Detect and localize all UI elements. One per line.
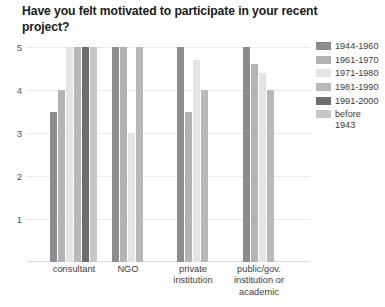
y-axis-tick-label: 3 (17, 128, 22, 139)
bar (128, 133, 135, 262)
bar (193, 60, 200, 262)
x-axis-label: public/gov. institution or academic (214, 264, 304, 298)
bar (177, 47, 184, 262)
bar (120, 47, 127, 262)
legend-item[interactable]: before 1943 (316, 109, 385, 130)
bar (259, 73, 266, 262)
legend-label: 1961-1970 (335, 55, 379, 66)
legend-swatch-icon (316, 83, 331, 91)
bar (90, 47, 97, 262)
legend-item[interactable]: 1991-2000 (316, 96, 385, 107)
bar (112, 47, 119, 262)
legend-item[interactable]: 1961-1970 (316, 55, 385, 66)
bar-group (243, 47, 275, 262)
bar (243, 47, 250, 262)
plot-area: 12345 (27, 47, 310, 262)
bar (267, 90, 274, 262)
legend-item[interactable]: 1944-1960 (316, 41, 385, 52)
bar (201, 90, 208, 262)
legend: 1944-19601961-19701971-19801981-19901991… (316, 41, 385, 134)
y-axis-tick-label: 2 (17, 171, 22, 182)
bar (66, 47, 73, 262)
bar-groups (27, 47, 310, 262)
x-axis-labels: consultantNGOprivate institutionpublic/g… (27, 264, 310, 307)
bar-chart: Have you felt motivated to participate i… (0, 0, 385, 307)
bar (74, 47, 81, 262)
bar (58, 90, 65, 262)
bar-group (50, 47, 98, 262)
y-axis-tick-label: 1 (17, 214, 22, 225)
legend-swatch-icon (316, 56, 331, 64)
y-axis-tick-label: 5 (17, 42, 22, 53)
legend-label: 1991-2000 (335, 96, 379, 107)
chart-title: Have you felt motivated to participate i… (22, 4, 322, 35)
legend-swatch-icon (316, 42, 331, 50)
bar-group (177, 47, 209, 262)
bar (251, 64, 258, 262)
legend-label: before 1943 (335, 109, 361, 130)
legend-item[interactable]: 1971-1980 (316, 68, 385, 79)
bar (82, 47, 89, 262)
legend-swatch-icon (316, 97, 331, 105)
bar (50, 112, 57, 263)
bar (185, 112, 192, 263)
bar (136, 47, 143, 262)
legend-item[interactable]: 1981-1990 (316, 82, 385, 93)
legend-swatch-icon (316, 110, 331, 118)
y-axis-tick-label: 4 (17, 85, 22, 96)
legend-label: 1971-1980 (335, 68, 379, 79)
bar-group (112, 47, 144, 262)
legend-label: 1944-1960 (335, 41, 379, 52)
legend-label: 1981-1990 (335, 82, 379, 93)
legend-swatch-icon (316, 69, 331, 77)
